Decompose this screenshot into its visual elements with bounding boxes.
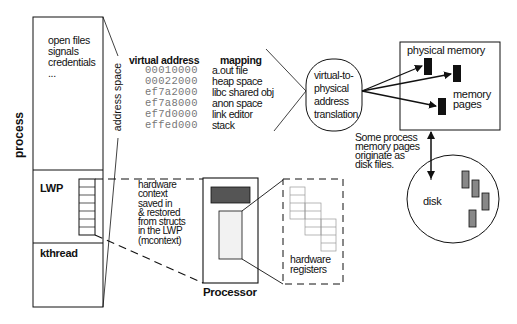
process-attributes: open files signals credentials ... [48, 35, 95, 79]
hardware-context-text: hardware context saved in & restored fro… [138, 180, 185, 245]
processor-register-area [219, 211, 242, 259]
context-line: (mcontext) [138, 236, 185, 245]
memory-pages-line: pages [453, 99, 491, 109]
address-column: 00010000 00022000 ef7a2000 ef7a8000 ef7d… [145, 65, 198, 131]
translation-text: virtual-to- physical address translation [314, 69, 358, 121]
disk-block [482, 193, 489, 210]
translation-line: virtual-to- [314, 69, 358, 82]
translation-arrows [362, 66, 451, 106]
physical-memory-title: physical memory [407, 45, 485, 55]
mapping-column: a.out file heap space libc shared obj an… [212, 65, 274, 131]
disk-block [469, 210, 476, 227]
memory-page [438, 98, 446, 115]
translation-line: physical [314, 82, 358, 95]
disk-block [462, 171, 469, 188]
translation-line: address [314, 95, 358, 108]
attr-ellipsis: ... [48, 68, 95, 79]
processor-label: Processor [203, 287, 257, 297]
processor-unit-dark [211, 187, 250, 203]
process-label: process [12, 109, 26, 161]
translation-line: translation [314, 108, 358, 121]
memory-pages-label: memory pages [453, 89, 491, 109]
hardware-registers-label: hardware registers [290, 254, 331, 274]
note-line: disk files. [355, 160, 420, 169]
disk-note: Some process memory pages originate as d… [355, 133, 420, 169]
disk-block [472, 180, 479, 197]
memory-page [424, 58, 432, 75]
kthread-label: kthread [40, 248, 78, 258]
address-cell: effed000 [145, 120, 198, 131]
address-space-label: address space [111, 59, 123, 135]
disk-label: disk [423, 196, 441, 206]
registers-line: registers [290, 264, 331, 274]
lwp-stack-icon [79, 179, 95, 235]
memory-page [453, 65, 461, 82]
mapping-cell: stack [212, 120, 274, 131]
lwp-label: LWP [40, 183, 63, 193]
register-grid-icon [290, 187, 336, 251]
